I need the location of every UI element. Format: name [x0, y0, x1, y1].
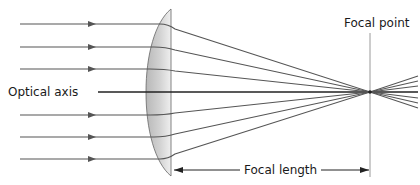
optical-axis-label: Optical axis [8, 85, 78, 99]
focal-point-marker [368, 90, 372, 94]
focal-length-label: Focal length [240, 163, 321, 177]
focal-point-label: Focal point [344, 16, 410, 30]
